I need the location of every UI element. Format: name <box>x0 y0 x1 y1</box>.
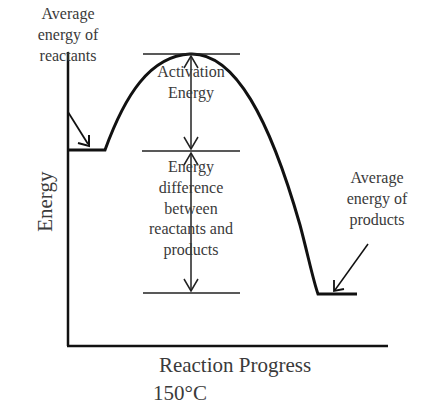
temperature-label: 150°C <box>140 380 220 407</box>
reactant-label-line: reactants <box>18 46 118 67</box>
activation-energy-label: Activation Energy <box>141 62 241 104</box>
product-label-line: Average <box>322 168 431 189</box>
difference-label-line: reactants and <box>126 219 256 240</box>
energy-difference-label: Energy difference between reactants and … <box>126 157 256 261</box>
difference-label-line: products <box>126 240 256 261</box>
y-axis-label: Energy <box>32 162 59 242</box>
product-label-line: energy of <box>322 189 431 210</box>
activation-label-line: Activation <box>141 62 241 83</box>
product-pointer-arrow <box>335 244 368 290</box>
reactant-label-line: energy of <box>18 25 118 46</box>
activation-label-line: Energy <box>141 83 241 104</box>
reactant-pointer-arrow <box>68 112 88 144</box>
product-energy-label: Average energy of products <box>322 168 431 230</box>
difference-label-line: Energy <box>126 157 256 178</box>
reactant-label-line: Average <box>18 4 118 25</box>
difference-label-line: between <box>126 199 256 220</box>
x-axis-label: Reaction Progress <box>130 352 340 379</box>
product-label-line: products <box>322 210 431 231</box>
difference-label-line: difference <box>126 178 256 199</box>
reactant-energy-label: Average energy of reactants <box>18 4 118 66</box>
